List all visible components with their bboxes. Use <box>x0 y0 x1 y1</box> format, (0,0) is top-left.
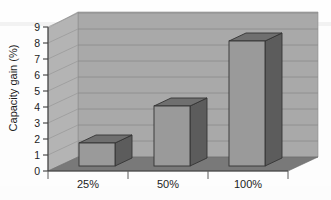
y-tick-label-3: 3 <box>26 118 40 128</box>
y-tick-label-4: 4 <box>26 102 40 112</box>
x-tick-label-50pct: 50% <box>138 178 198 190</box>
y-tick-label-5: 5 <box>26 86 40 96</box>
chart-screenshot: 0 1 2 3 4 5 6 7 8 9 Capacity gain (%) 25… <box>0 0 331 200</box>
y-tick-label-7: 7 <box>26 54 40 64</box>
y-tick-label-1: 1 <box>26 150 40 160</box>
bar-25pct <box>79 135 132 166</box>
x-axis-tick-labels: 25% 50% 100% <box>0 178 331 194</box>
bar-100pct-side <box>265 33 282 166</box>
bar-100pct-front <box>229 41 265 166</box>
bar-100pct <box>229 33 282 166</box>
y-tick-label-8: 8 <box>26 38 40 48</box>
bar-50pct-front <box>154 106 190 166</box>
y-tick-label-0: 0 <box>26 166 40 176</box>
x-tick-label-100pct: 100% <box>218 178 278 190</box>
bar-50pct-side <box>190 98 207 166</box>
y-axis-tick-labels: 0 1 2 3 4 5 6 7 8 9 <box>24 0 40 200</box>
y-axis-ticks <box>43 27 48 171</box>
bar-50pct <box>154 98 207 166</box>
bar-25pct-front <box>79 143 115 166</box>
chart-svg <box>0 0 331 200</box>
y-tick-label-6: 6 <box>26 70 40 80</box>
chart-plot-area <box>0 0 331 200</box>
y-axis-title: Capacity gain (%) <box>7 28 19 148</box>
x-tick-label-25pct: 25% <box>58 178 118 190</box>
y-tick-label-9: 9 <box>26 22 40 32</box>
y-tick-label-2: 2 <box>26 134 40 144</box>
